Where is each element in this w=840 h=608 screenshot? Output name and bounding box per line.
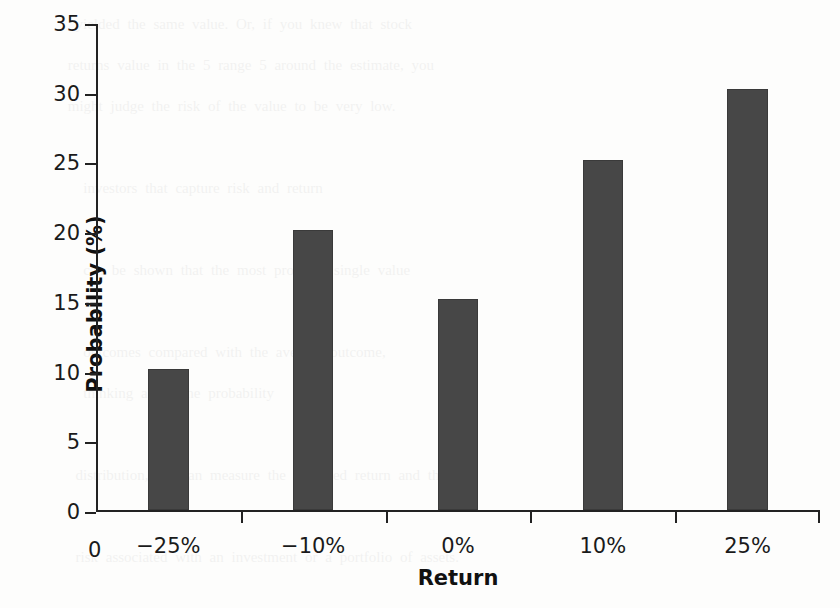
- y-tick-label: 5: [67, 430, 80, 454]
- x-tick-mark: [530, 512, 532, 523]
- y-tick-label: 35: [53, 12, 80, 36]
- y-tick-mark: [85, 24, 96, 26]
- bar: [583, 160, 624, 510]
- x-axis-line: [96, 510, 820, 512]
- x-tick-label: 0%: [441, 534, 474, 558]
- x-axis-title: Return: [96, 566, 820, 590]
- bar: [148, 369, 189, 510]
- x-tick-mark: [675, 512, 677, 523]
- plot-area: 0 5 10 15 20 25 30 35: [96, 24, 820, 512]
- x-tick-mark: [818, 512, 820, 523]
- y-tick-mark: [85, 512, 96, 514]
- y-tick-label: 25: [53, 151, 80, 175]
- y-tick-label: 10: [53, 361, 80, 385]
- chart-figure: yielded the same value. Or, if you knew …: [0, 0, 840, 608]
- x-axis-origin-label: 0: [88, 538, 101, 562]
- bar: [438, 299, 479, 510]
- y-tick-mark: [85, 94, 96, 96]
- y-tick-mark: [85, 373, 96, 375]
- y-tick-label: 0: [67, 500, 80, 524]
- y-axis-line: [96, 24, 98, 512]
- y-tick-label: 15: [53, 291, 80, 315]
- y-tick-label: 30: [53, 82, 80, 106]
- y-tick-mark: [85, 163, 96, 165]
- x-tick-label: 25%: [724, 534, 771, 558]
- x-tick-mark: [386, 512, 388, 523]
- bar: [727, 89, 768, 510]
- y-tick-mark: [85, 233, 96, 235]
- y-tick-label: 20: [53, 221, 80, 245]
- x-tick-label: 10%: [579, 534, 626, 558]
- y-tick-mark: [85, 442, 96, 444]
- x-tick-label: −25%: [136, 534, 200, 558]
- y-tick-mark: [85, 303, 96, 305]
- x-tick-mark: [241, 512, 243, 523]
- bar: [293, 230, 334, 510]
- x-tick-label: −10%: [281, 534, 345, 558]
